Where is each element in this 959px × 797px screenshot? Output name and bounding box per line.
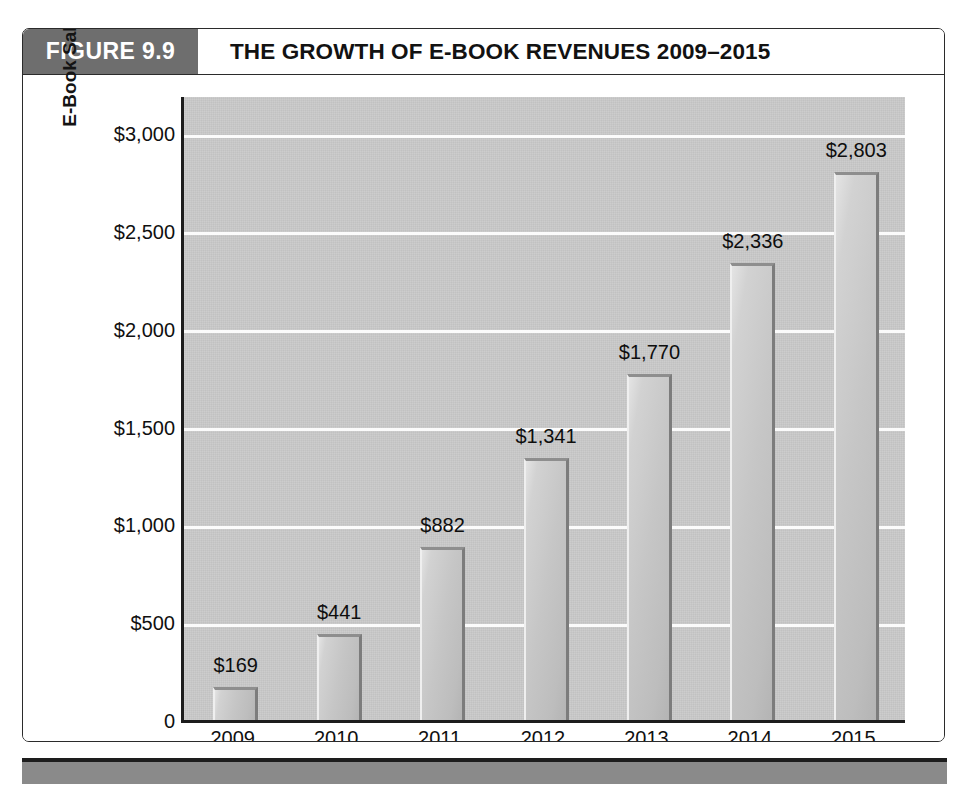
figure-header: FIGURE 9.9 THE GROWTH OF E-BOOK REVENUES… [23, 29, 944, 75]
bar[interactable] [834, 172, 879, 720]
x-tick-label: 2009 [183, 727, 283, 742]
chart-body: E-Book Sales (in millions) 0$500$1,000$1… [23, 75, 944, 741]
bar-value-label: $2,803 [808, 139, 905, 162]
bar-slot: $441 [317, 97, 362, 720]
bar-series: $169$441$882$1,341$1,770$2,336$2,803 [184, 97, 905, 720]
y-tick-label: $1,500 [114, 417, 175, 440]
bar-value-label: $169 [187, 654, 284, 677]
x-axis-tick-labels: 2009201020112012201320142015 [181, 727, 905, 742]
bar-slot: $2,803 [834, 97, 879, 720]
bar[interactable] [420, 547, 465, 720]
bar-slot: $1,341 [524, 97, 569, 720]
y-tick-label: $500 [131, 612, 176, 635]
figure-root: FIGURE 9.9 THE GROWTH OF E-BOOK REVENUES… [0, 0, 959, 797]
bar[interactable] [627, 374, 672, 720]
figure-number-badge: FIGURE 9.9 [23, 29, 198, 74]
footer-band [22, 762, 947, 784]
y-tick-label: $2,000 [114, 319, 175, 342]
bar-value-label: $2,336 [704, 230, 801, 253]
bar[interactable] [213, 687, 258, 720]
bar-slot: $882 [420, 97, 465, 720]
x-tick-label: 2014 [700, 727, 800, 742]
y-axis-title: E-Book Sales (in millions) [59, 28, 81, 175]
bar-value-label: $1,770 [601, 341, 698, 364]
x-tick-label: 2011 [390, 727, 490, 742]
y-tick-label: $3,000 [114, 123, 175, 146]
bar-slot: $2,336 [730, 97, 775, 720]
x-tick-label: 2010 [286, 727, 386, 742]
bar-slot: $169 [213, 97, 258, 720]
bar-value-label: $1,341 [498, 425, 595, 448]
y-tick-label: $1,000 [114, 514, 175, 537]
bar[interactable] [317, 634, 362, 720]
plot-area: $169$441$882$1,341$1,770$2,336$2,803 [181, 97, 905, 723]
bar[interactable] [524, 458, 569, 720]
bar-value-label: $441 [291, 601, 388, 624]
y-tick-label: $2,500 [114, 221, 175, 244]
bar[interactable] [730, 263, 775, 720]
x-tick-label: 2015 [803, 727, 903, 742]
x-tick-label: 2013 [596, 727, 696, 742]
figure-card: FIGURE 9.9 THE GROWTH OF E-BOOK REVENUES… [22, 28, 945, 742]
y-tick-label: 0 [164, 710, 175, 733]
y-axis-tick-labels: 0$500$1,000$1,500$2,000$2,500$3,000 [83, 97, 175, 723]
figure-title: THE GROWTH OF E-BOOK REVENUES 2009–2015 [198, 29, 944, 74]
x-tick-label: 2012 [493, 727, 593, 742]
bar-value-label: $882 [394, 514, 491, 537]
bar-slot: $1,770 [627, 97, 672, 720]
